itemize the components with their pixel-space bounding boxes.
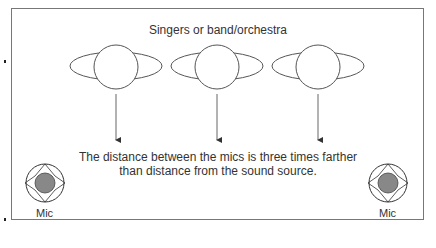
- diagram-caption: The distance between the mics is three t…: [0, 150, 436, 178]
- diagram-graphics: [0, 0, 436, 248]
- caption-line-1: The distance between the mics is three t…: [0, 150, 436, 164]
- caption-line-2: than distance from the sound source.: [0, 164, 436, 178]
- mic-label-right: Mic: [379, 207, 396, 219]
- sound-source-icon: [171, 45, 263, 140]
- sound-source-icon: [272, 45, 364, 140]
- sound-source-icon: [70, 45, 162, 140]
- mic-label-left: Mic: [36, 207, 53, 219]
